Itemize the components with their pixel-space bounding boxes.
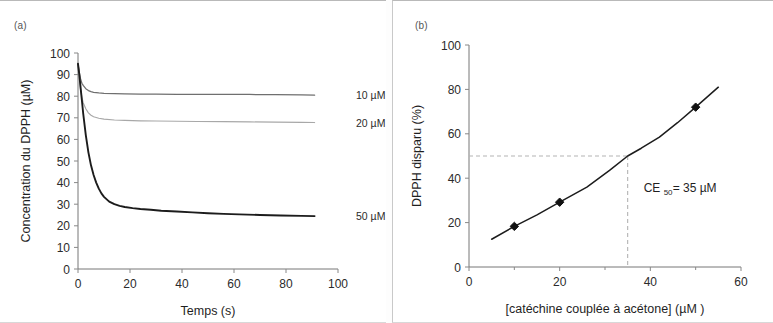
y-tick-label: 0 bbox=[454, 261, 461, 275]
ce50-label-value: = 35 µM bbox=[673, 181, 717, 195]
x-tick-label: 40 bbox=[644, 275, 658, 289]
ce50-guides bbox=[469, 156, 628, 267]
series-label: 20 µM bbox=[356, 117, 385, 129]
series-label-group: 10 µM20 µM50 µM bbox=[356, 89, 385, 222]
y-tick-label: 10 bbox=[57, 241, 71, 255]
series-label: 50 µM bbox=[356, 210, 385, 222]
x-tick-label: 60 bbox=[734, 275, 748, 289]
y-tick-label: 80 bbox=[57, 90, 71, 104]
data-point-marker bbox=[510, 222, 518, 230]
y-tick-label: 70 bbox=[57, 111, 71, 125]
y-tick-label: 20 bbox=[448, 216, 462, 230]
series-label: 10 µM bbox=[356, 89, 385, 101]
y-tick-label: 20 bbox=[57, 219, 71, 233]
y-tick-label: 30 bbox=[57, 198, 71, 212]
y-tick-label: 100 bbox=[50, 47, 70, 61]
series-curve bbox=[78, 64, 315, 216]
panel-a-plot: 0102030405060708090100020406080100Temps … bbox=[0, 1, 386, 323]
y-tick-label: 40 bbox=[448, 172, 462, 186]
data-point-marker bbox=[555, 198, 563, 206]
y-axis-title: Concentration du DPPH (µM) bbox=[19, 80, 33, 243]
series-curve bbox=[492, 87, 719, 239]
marker-group bbox=[510, 103, 700, 231]
x-tick-group: 0204060 bbox=[466, 267, 748, 289]
x-tick-label: 0 bbox=[466, 275, 473, 289]
panel-b-plot: 0204060801000204060[catéchine couplée à … bbox=[393, 1, 773, 323]
panel-b: (b) 0204060801000204060[catéchine couplé… bbox=[392, 0, 773, 323]
x-tick-group: 020406080100 bbox=[75, 269, 349, 291]
y-tick-group: 020406080100 bbox=[441, 39, 469, 275]
panel-a: (a) 0102030405060708090100020406080100Te… bbox=[0, 0, 386, 323]
x-tick-label: 0 bbox=[75, 277, 82, 291]
y-tick-group: 0102030405060708090100 bbox=[50, 47, 78, 277]
y-tick-label: 100 bbox=[441, 39, 461, 53]
x-tick-label: 60 bbox=[227, 277, 241, 291]
x-axis-title: [catéchine couplée à acétone] (µM ) bbox=[506, 302, 705, 316]
y-tick-label: 0 bbox=[63, 263, 70, 277]
ce50-annotation: CE50 = 35 µM bbox=[644, 181, 717, 198]
ce50-label-text: CE bbox=[644, 181, 661, 195]
y-axis-title: DPPH disparu (%) bbox=[410, 105, 424, 207]
x-tick-label: 80 bbox=[279, 277, 293, 291]
x-tick-label: 40 bbox=[175, 277, 189, 291]
series-group bbox=[78, 64, 315, 216]
x-tick-label: 20 bbox=[123, 277, 137, 291]
x-tick-label: 100 bbox=[328, 277, 348, 291]
y-tick-label: 60 bbox=[57, 133, 71, 147]
y-tick-label: 50 bbox=[57, 155, 71, 169]
y-tick-label: 90 bbox=[57, 68, 71, 82]
x-tick-label: 20 bbox=[553, 275, 567, 289]
y-tick-label: 60 bbox=[448, 127, 462, 141]
y-tick-label: 40 bbox=[57, 176, 71, 190]
figure-root: (a) 0102030405060708090100020406080100Te… bbox=[0, 0, 773, 323]
series-curve bbox=[78, 64, 315, 95]
y-tick-label: 80 bbox=[448, 83, 462, 97]
x-axis-title: Temps (s) bbox=[181, 304, 236, 318]
panel-a-axes bbox=[78, 53, 338, 269]
